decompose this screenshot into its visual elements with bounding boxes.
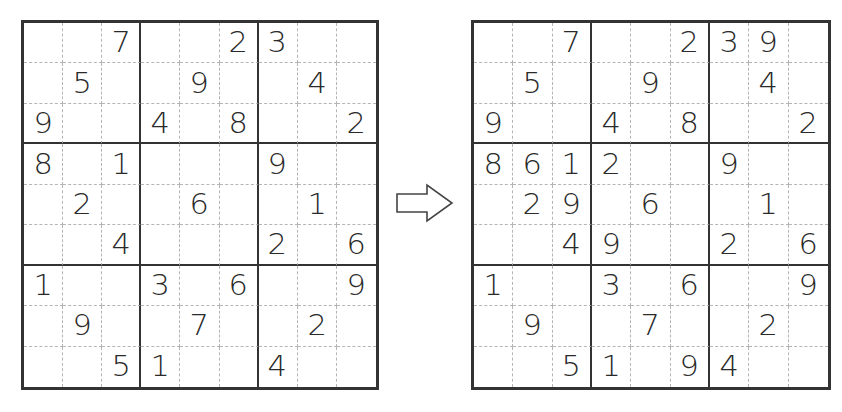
grid-cell (553, 104, 592, 144)
grid-cell (180, 347, 219, 387)
grid-cell (220, 144, 259, 184)
grid-cell: 2 (220, 23, 259, 63)
grid-cell (337, 144, 376, 184)
cell-digit: 6 (641, 190, 660, 219)
grid-cell (141, 23, 180, 63)
cell-digit: 1 (759, 190, 778, 219)
grid-cell (298, 23, 337, 63)
grid-cell: 6 (180, 185, 219, 225)
cell-digit: 2 (307, 311, 326, 340)
grid-cell (259, 63, 298, 103)
grid-cell (749, 266, 788, 306)
cell-digit: 2 (759, 311, 778, 340)
grid-cell (63, 347, 102, 387)
grid-cell: 2 (513, 185, 552, 225)
grid-cell: 9 (63, 306, 102, 346)
grid-cell (789, 347, 828, 387)
grid-cell (789, 144, 828, 184)
cell-digit: 5 (111, 352, 130, 381)
cell-digit: 4 (111, 230, 130, 259)
grid-cell (102, 185, 141, 225)
cell-digit: 2 (719, 230, 738, 259)
grid-cell: 4 (592, 104, 631, 144)
grid-cell: 3 (592, 266, 631, 306)
grid-cell (298, 144, 337, 184)
right-arrow-icon (395, 183, 455, 223)
grid-cell (180, 144, 219, 184)
grid-cell (220, 63, 259, 103)
cell-digit: 2 (72, 190, 91, 219)
grid-cell: 9 (513, 306, 552, 346)
cell-digit: 9 (799, 271, 818, 300)
grid-cell: 6 (789, 225, 828, 265)
grid-cell (102, 104, 141, 144)
grid-cell (337, 306, 376, 346)
cell-digit: 2 (228, 28, 247, 57)
grid-cell (141, 63, 180, 103)
grid-cell: 2 (710, 225, 749, 265)
cell-digit: 9 (190, 69, 209, 98)
cell-digit: 2 (680, 28, 699, 57)
grid-cell (298, 347, 337, 387)
grid-cell (631, 347, 670, 387)
grid-cell (474, 63, 513, 103)
grid-cell: 1 (102, 144, 141, 184)
grid-cell: 4 (298, 63, 337, 103)
grid-cell: 5 (63, 63, 102, 103)
grid-cell: 4 (749, 63, 788, 103)
cell-digit: 8 (228, 109, 247, 138)
grid-cell: 2 (259, 225, 298, 265)
cell-digit: 9 (680, 352, 699, 381)
grid-cell: 6 (513, 144, 552, 184)
grid-cell (749, 144, 788, 184)
grid-cell (24, 306, 63, 346)
cell-digit: 3 (601, 271, 620, 300)
grid-cell (710, 104, 749, 144)
grid-cell (298, 104, 337, 144)
grid-cell (789, 63, 828, 103)
cell-digit: 3 (719, 28, 738, 57)
cell-digit: 4 (562, 230, 581, 259)
cell-digit: 9 (483, 109, 502, 138)
cell-digit: 9 (72, 311, 91, 340)
cell-digit: 7 (111, 28, 130, 57)
grid-cell: 4 (710, 347, 749, 387)
cell-digit: 9 (523, 311, 542, 340)
grid-cell: 1 (298, 185, 337, 225)
grid-cell: 2 (63, 185, 102, 225)
grid-cell (220, 225, 259, 265)
grid-cell (63, 266, 102, 306)
grid-cell (710, 306, 749, 346)
grid-cell (789, 23, 828, 63)
grid-cell: 9 (337, 266, 376, 306)
cell-digit: 9 (562, 190, 581, 219)
grid-cell: 8 (474, 144, 513, 184)
grid-cell (102, 63, 141, 103)
cell-digit: 9 (33, 109, 52, 138)
sudoku-grid-solved-step: 72395949482861292961492613699725194 (471, 20, 831, 390)
cell-digit: 2 (601, 150, 620, 179)
cell-digit: 6 (228, 271, 247, 300)
grid-cell: 7 (102, 23, 141, 63)
grid-cell: 6 (671, 266, 710, 306)
grid-cell (789, 306, 828, 346)
grid-cell (141, 306, 180, 346)
cell-digit: 9 (268, 150, 287, 179)
grid-cell: 2 (298, 306, 337, 346)
cell-digit: 4 (307, 69, 326, 98)
grid-cell (63, 23, 102, 63)
grid-cell (513, 225, 552, 265)
grid-cell (220, 185, 259, 225)
cell-digit: 6 (523, 150, 542, 179)
cell-digit: 7 (641, 311, 660, 340)
cell-digit: 4 (151, 109, 170, 138)
cell-digit: 1 (33, 271, 52, 300)
cell-digit: 7 (562, 28, 581, 57)
grid-cell: 9 (671, 347, 710, 387)
grid-cell (24, 63, 63, 103)
grid-cell (259, 185, 298, 225)
cell-digit: 9 (759, 28, 778, 57)
grid-cell (671, 225, 710, 265)
grid-cell: 6 (337, 225, 376, 265)
cell-digit: 9 (719, 150, 738, 179)
